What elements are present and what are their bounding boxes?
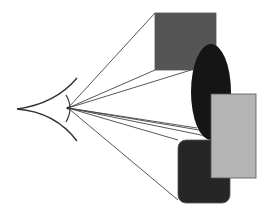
lower-eyelid [17,109,77,141]
light-rectangle [211,94,256,178]
shapes-group [155,13,256,203]
sight-line [68,13,155,108]
sight-line [68,108,211,137]
sight-line [68,70,191,108]
sight-line [68,70,155,108]
sight-line [68,108,178,200]
pupil [66,106,69,109]
eye-icon [17,78,77,141]
eye-sight-diagram [0,0,270,215]
upper-eyelid [17,78,77,109]
